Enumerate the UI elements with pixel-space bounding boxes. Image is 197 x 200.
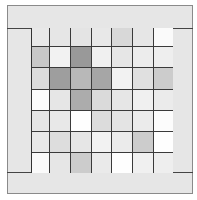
- grid-cell[interactable]: [71, 90, 92, 111]
- grid-cell[interactable]: [32, 132, 50, 153]
- grid-cell[interactable]: [32, 47, 50, 68]
- grid-cell[interactable]: [71, 47, 92, 68]
- grid-cell[interactable]: [32, 28, 50, 47]
- grid-cell[interactable]: [50, 111, 71, 132]
- grid-cell[interactable]: [32, 68, 50, 90]
- grid-cell[interactable]: [71, 111, 92, 132]
- grid-cell[interactable]: [32, 111, 50, 132]
- grid-cell[interactable]: [71, 28, 92, 47]
- grid-cell[interactable]: [133, 132, 154, 153]
- grid-cell[interactable]: [50, 47, 71, 68]
- grid-cell[interactable]: [92, 68, 112, 90]
- grid-cell[interactable]: [71, 68, 92, 90]
- pixel-grid: [31, 28, 172, 173]
- grid-cell[interactable]: [154, 153, 173, 173]
- grid-cell[interactable]: [154, 47, 173, 68]
- grid-cell[interactable]: [133, 47, 154, 68]
- grid-cell[interactable]: [50, 132, 71, 153]
- grid-cell[interactable]: [50, 153, 71, 173]
- grid-cell[interactable]: [92, 111, 112, 132]
- grid-cell[interactable]: [92, 132, 112, 153]
- grid-cell[interactable]: [71, 153, 92, 173]
- grid-cell[interactable]: [112, 132, 133, 153]
- grid-cell[interactable]: [154, 132, 173, 153]
- grid-cell[interactable]: [92, 153, 112, 173]
- grid-cell[interactable]: [154, 90, 173, 111]
- grid-cell[interactable]: [112, 90, 133, 111]
- grid-cell[interactable]: [112, 47, 133, 68]
- grid-cell[interactable]: [112, 153, 133, 173]
- grid-cell[interactable]: [133, 90, 154, 111]
- grid-cell[interactable]: [32, 90, 50, 111]
- grid-cell[interactable]: [71, 132, 92, 153]
- grid-cell[interactable]: [32, 153, 50, 173]
- grid-cell[interactable]: [50, 68, 71, 90]
- grid-cell[interactable]: [92, 28, 112, 47]
- grid-cell[interactable]: [112, 28, 133, 47]
- grid-cell[interactable]: [92, 90, 112, 111]
- grid-cell[interactable]: [50, 28, 71, 47]
- grid-cell[interactable]: [154, 68, 173, 90]
- grid-cell[interactable]: [133, 153, 154, 173]
- top-band: [7, 5, 193, 29]
- grid-cell[interactable]: [50, 90, 71, 111]
- grid-cell[interactable]: [154, 28, 173, 47]
- grid-cell[interactable]: [112, 68, 133, 90]
- grid-cell[interactable]: [133, 111, 154, 132]
- bottom-band: [7, 172, 193, 194]
- grid-cell[interactable]: [133, 68, 154, 90]
- grid-cell[interactable]: [133, 28, 154, 47]
- grid-cell[interactable]: [112, 111, 133, 132]
- grid-cell[interactable]: [154, 111, 173, 132]
- grid-cell[interactable]: [92, 47, 112, 68]
